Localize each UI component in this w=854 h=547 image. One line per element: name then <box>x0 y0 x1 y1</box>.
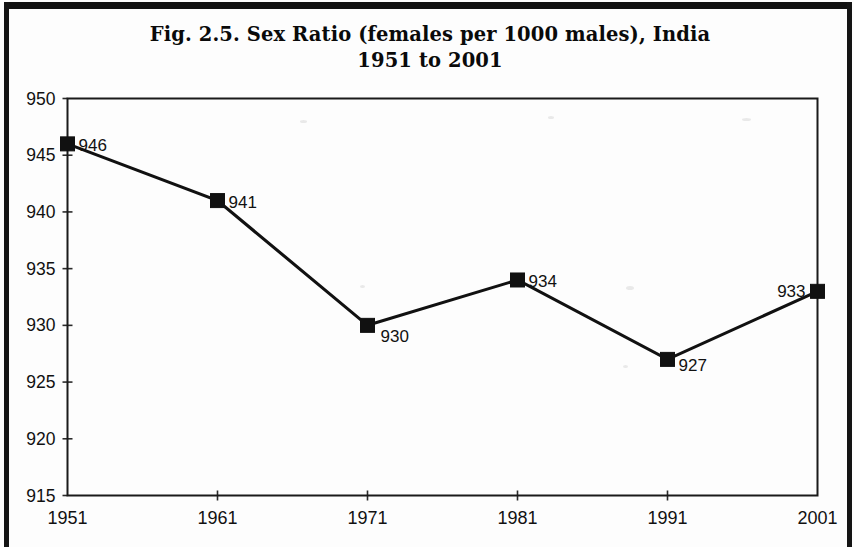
y-axis-tick-label: 915 <box>26 486 55 506</box>
figure-page: Fig. 2.5. Sex Ratio (females per 1000 ma… <box>0 0 854 547</box>
data-point-marker <box>361 318 375 332</box>
y-axis-tick-label: 950 <box>26 89 55 109</box>
data-point-labels: 946941930934927933 <box>79 136 806 376</box>
data-point-marker <box>811 284 825 298</box>
data-point-marker <box>211 194 225 208</box>
y-axis-tick-label: 920 <box>26 429 55 449</box>
y-axis-tick-label: 940 <box>26 202 55 222</box>
data-point-label: 946 <box>79 136 107 155</box>
data-point-label: 934 <box>529 272 557 291</box>
y-axis-tick-label: 930 <box>26 315 55 335</box>
y-axis-tick-labels: 950945940935930925920915 <box>26 89 55 506</box>
x-axis-tick-label: 1971 <box>347 508 387 528</box>
data-point-marker <box>661 352 675 366</box>
chart-canvas: 950945940935930925920915 195119611971198… <box>0 0 854 547</box>
data-point-label: 927 <box>679 356 707 375</box>
data-point-label: 930 <box>381 327 409 346</box>
x-axis-tick-label: 1951 <box>47 508 87 528</box>
plot-frame <box>68 99 818 496</box>
x-axis-tick-label: 1961 <box>197 508 237 528</box>
x-axis-tick-label: 1991 <box>647 508 687 528</box>
x-axis-tick-labels: 195119611971198119912001 <box>47 508 837 528</box>
y-axis-tick-label: 945 <box>26 145 55 165</box>
data-point-marker <box>61 137 75 151</box>
line-chart: 950945940935930925920915 195119611971198… <box>0 0 854 547</box>
x-axis-tick-label: 1981 <box>497 508 537 528</box>
x-axis-tick-label: 2001 <box>797 508 837 528</box>
data-point-marker <box>511 273 525 287</box>
data-point-markers <box>61 137 825 367</box>
plot-axes <box>68 99 818 496</box>
data-point-label: 941 <box>229 193 257 212</box>
sex-ratio-series-line <box>68 144 818 360</box>
y-axis-tick-label: 925 <box>26 372 55 392</box>
y-axis-tick-label: 935 <box>26 259 55 279</box>
data-point-label: 933 <box>777 282 805 301</box>
